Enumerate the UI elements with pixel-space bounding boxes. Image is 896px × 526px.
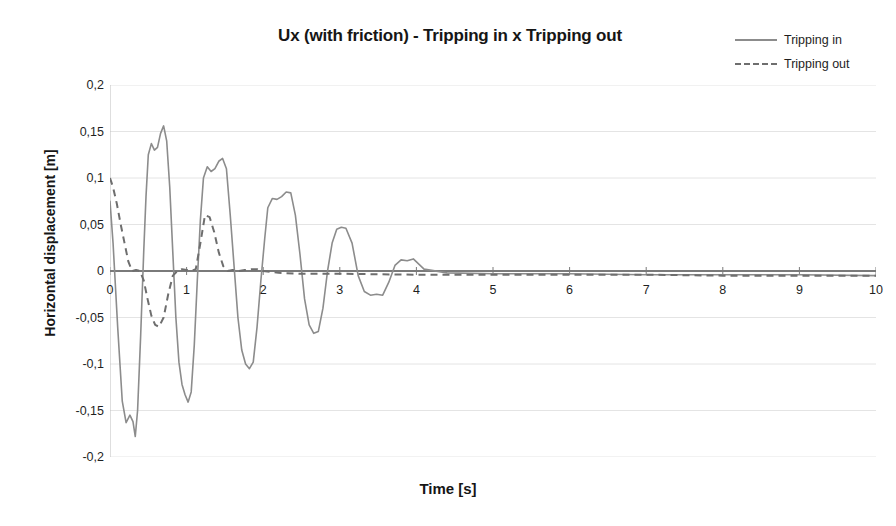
y-tick-label: 0,05 [58, 218, 104, 232]
plot-svg [110, 85, 876, 457]
y-tick-label: -0,15 [58, 404, 104, 418]
x-tick-label: 0 [90, 283, 130, 297]
x-tick-label: 3 [320, 283, 360, 297]
x-tick-label: 5 [473, 283, 513, 297]
chart-container: Ux (with friction) - Tripping in x Tripp… [0, 0, 896, 526]
legend-label: Tripping out [784, 57, 850, 71]
y-tick-label: -0,05 [58, 311, 104, 325]
y-tick-label: -0,1 [58, 357, 104, 371]
x-axis-title: Time [s] [348, 480, 548, 497]
legend-dashed-line-icon [735, 58, 777, 70]
x-tick-label: 1 [167, 283, 207, 297]
y-tick-label: 0,15 [58, 125, 104, 139]
y-tick-label: 0,1 [58, 171, 104, 185]
legend-label: Tripping in [784, 33, 842, 47]
legend-solid-line-icon [735, 34, 777, 46]
x-tick-label: 7 [626, 283, 666, 297]
chart-legend: Tripping in Tripping out [735, 28, 895, 76]
legend-item-tripping-out: Tripping out [735, 52, 895, 76]
y-tick-label: -0,2 [58, 450, 104, 464]
chart-title: Ux (with friction) - Tripping in x Tripp… [150, 26, 750, 46]
y-tick-label: 0 [58, 264, 104, 278]
x-tick-label: 9 [779, 283, 819, 297]
series-line-tripping-in [110, 126, 876, 437]
x-tick-label: 10 [856, 283, 896, 297]
x-tick-label: 6 [550, 283, 590, 297]
x-axis-tick-labels: 012345678910 [110, 283, 876, 303]
plot-area [110, 85, 876, 457]
x-tick-label: 4 [396, 283, 436, 297]
series-line-tripping-out [110, 178, 876, 327]
y-axis-tick-labels: 0,20,150,10,050-0,05-0,1-0,15-0,2 [52, 85, 104, 457]
legend-item-tripping-in: Tripping in [735, 28, 895, 52]
y-tick-label: 0,2 [58, 78, 104, 92]
x-tick-label: 8 [703, 283, 743, 297]
x-tick-label: 2 [243, 283, 283, 297]
